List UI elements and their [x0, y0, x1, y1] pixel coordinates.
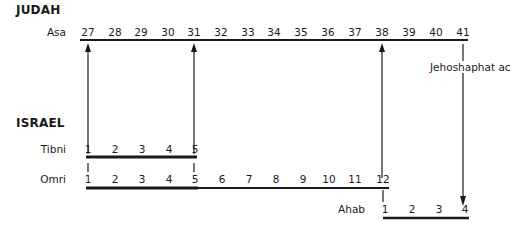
- arrow-head-up-icon: [379, 43, 385, 52]
- omri-year: 2: [105, 173, 125, 185]
- asa-year: 27: [78, 26, 98, 38]
- ahab-year: 4: [455, 203, 475, 215]
- omri-year: 3: [132, 173, 152, 185]
- omri-year: 7: [239, 173, 259, 185]
- tibni-year: 4: [159, 143, 179, 155]
- omri-year: 9: [293, 173, 313, 185]
- judah-heading: JUDAH: [16, 3, 61, 17]
- ahab-year: 1: [375, 203, 395, 215]
- asa-label: Asa: [6, 26, 66, 38]
- asa-year: 39: [399, 26, 419, 38]
- omri-year: 6: [212, 173, 232, 185]
- asa-year: 35: [291, 26, 311, 38]
- omri-year: 8: [266, 173, 286, 185]
- omri-year: 10: [319, 173, 339, 185]
- asa-year: 41: [453, 26, 473, 38]
- asa-year: 28: [105, 26, 125, 38]
- tibni-label: Tibni: [6, 143, 66, 155]
- israel-heading: ISRAEL: [16, 116, 65, 130]
- asa-year: 33: [238, 26, 258, 38]
- tibni-year: 2: [105, 143, 125, 155]
- omri-year: 12: [373, 173, 393, 185]
- asa-year: 38: [372, 26, 392, 38]
- asa-year: 34: [264, 26, 284, 38]
- omri-year: 4: [159, 173, 179, 185]
- ahab-year: 3: [429, 203, 449, 215]
- asa-year: 31: [184, 26, 204, 38]
- asa-year: 37: [345, 26, 365, 38]
- arrow-head-up-icon: [191, 43, 197, 52]
- arrow-head-up-icon: [85, 43, 91, 52]
- asa-year: 36: [318, 26, 338, 38]
- omri-year: 11: [345, 173, 365, 185]
- omri-year: 5: [185, 173, 205, 185]
- asa-year: 30: [158, 26, 178, 38]
- tibni-year: 1: [78, 143, 98, 155]
- asa-year: 32: [211, 26, 231, 38]
- ahab-year: 2: [402, 203, 422, 215]
- omri-year: 1: [78, 173, 98, 185]
- asa-year: 29: [131, 26, 151, 38]
- jehoshaphat-annotation: Jehoshaphat ac: [429, 61, 512, 73]
- tibni-year: 3: [132, 143, 152, 155]
- tibni-year: 5: [185, 143, 205, 155]
- ahab-label: Ahab: [305, 203, 365, 215]
- omri-label: Omri: [6, 173, 66, 185]
- asa-year: 40: [426, 26, 446, 38]
